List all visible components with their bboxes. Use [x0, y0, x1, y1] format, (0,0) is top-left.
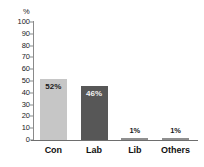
x-axis-category-label: Con [33, 145, 74, 156]
bar-group: 1% [162, 22, 189, 140]
bar-value-label: 52% [40, 82, 67, 91]
y-axis-tick-label: 90 [2, 30, 30, 38]
bar-value-label: 46% [81, 89, 108, 98]
y-axis-tick-label: 20 [2, 112, 30, 120]
y-axis-tick-label: 80 [2, 42, 30, 50]
y-axis-tick-label: 30 [2, 101, 30, 109]
y-axis-tick-labels: 0102030405060708090100 [0, 0, 30, 167]
x-axis-category-label: Others [155, 145, 196, 156]
x-axis-line [31, 140, 198, 141]
bar-value-label: 1% [162, 126, 189, 135]
bar[interactable] [121, 138, 148, 140]
bar-group: 46% [81, 22, 108, 140]
y-axis-tick-label: 60 [2, 65, 30, 73]
x-axis-category-label: Lib [115, 145, 156, 156]
x-axis-category-label: Lab [74, 145, 115, 156]
bar-chart: % 0102030405060708090100 52%46%1%1% ConL… [0, 0, 204, 167]
bar-value-label: 1% [121, 126, 148, 135]
bar-group: 52% [40, 22, 67, 140]
y-axis-tick-label: 10 [2, 124, 30, 132]
bar-group: 1% [121, 22, 148, 140]
y-axis-tick-label: 40 [2, 89, 30, 97]
y-axis-tick-label: 0 [2, 136, 30, 144]
plot-area: 52%46%1%1% [33, 22, 196, 140]
y-axis-tick-label: 100 [2, 18, 30, 26]
y-axis-tick-label: 70 [2, 53, 30, 61]
bar[interactable] [162, 138, 189, 140]
y-axis-tick-label: 50 [2, 77, 30, 85]
